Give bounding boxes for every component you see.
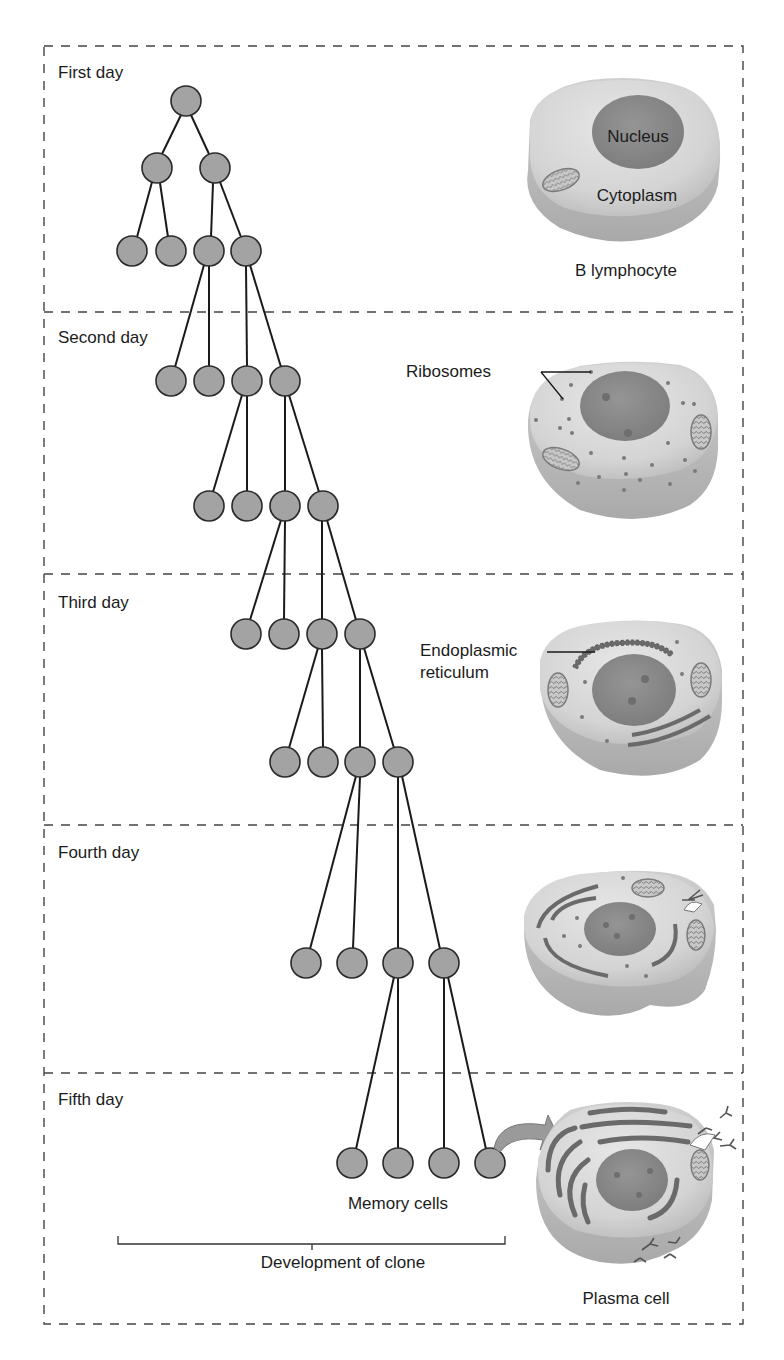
day4-cell-illustration: [524, 871, 716, 1016]
cell-node: [194, 236, 224, 266]
er-label-line1: Endoplasmic: [420, 641, 518, 660]
plasma-cell-caption: Plasma cell: [583, 1289, 670, 1308]
cell-node: [232, 366, 262, 396]
day2-cell-illustration: [528, 362, 718, 519]
plasma-cell-illustration: [536, 1102, 736, 1264]
day-label-fourth: Fourth day: [58, 843, 140, 862]
cell-node: [337, 948, 367, 978]
mitochondrion-icon: [687, 920, 705, 950]
day-label-fifth: Fifth day: [58, 1090, 124, 1109]
cell-node: [142, 153, 172, 183]
nucleus: [596, 1149, 668, 1211]
mitochondrion-icon: [548, 673, 568, 707]
er-label-line2: reticulum: [420, 663, 489, 682]
cell-node: [231, 236, 261, 266]
cell-node: [383, 747, 413, 777]
day-label-second: Second day: [58, 328, 148, 347]
cell-node: [156, 366, 186, 396]
memory-cell-node: [475, 1148, 505, 1178]
clone-bracket: [118, 1236, 505, 1250]
cell-node: [270, 747, 300, 777]
cell-node: [291, 948, 321, 978]
memory-cell-node: [337, 1148, 367, 1178]
nucleus-label: Nucleus: [607, 127, 668, 146]
mitochondrion-icon: [691, 663, 711, 697]
cell-node: [156, 236, 186, 266]
cell-node: [232, 491, 262, 521]
day3-cell-illustration: [540, 620, 722, 775]
cell-node: [383, 948, 413, 978]
cell-node: [270, 491, 300, 521]
memory-cells-label: Memory cells: [348, 1194, 448, 1213]
lineage-nodes: [117, 86, 505, 1178]
cell-node: [171, 86, 201, 116]
mitochondrion-icon: [632, 879, 664, 897]
ribosomes-label: Ribosomes: [406, 362, 491, 381]
mitochondrion-icon: [691, 415, 711, 449]
day-label-first: First day: [58, 63, 124, 82]
cell-node: [307, 619, 337, 649]
nucleus: [592, 654, 676, 726]
cell-node: [308, 491, 338, 521]
memory-cell-node: [429, 1148, 459, 1178]
nucleus: [584, 902, 656, 956]
cell-node: [429, 948, 459, 978]
cell-node: [308, 747, 338, 777]
mitochondrion-icon: [691, 1150, 709, 1180]
memory-cell-node: [383, 1148, 413, 1178]
cell-node: [117, 236, 147, 266]
cell-node: [231, 619, 261, 649]
cell-node: [345, 619, 375, 649]
clonal-expansion-diagram: First day Second day Third day Fourth da…: [0, 0, 784, 1360]
cell-node: [194, 366, 224, 396]
day-label-third: Third day: [58, 593, 129, 612]
b-lymphocyte-caption: B lymphocyte: [575, 261, 677, 280]
bracket-label: Development of clone: [261, 1253, 425, 1272]
b-lymphocyte-illustration: Nucleus Cytoplasm: [527, 78, 720, 241]
cell-node: [269, 619, 299, 649]
cell-node: [194, 491, 224, 521]
cytoplasm-label: Cytoplasm: [597, 186, 677, 205]
cell-node: [200, 153, 230, 183]
cell-node: [345, 747, 375, 777]
cell-node: [270, 366, 300, 396]
